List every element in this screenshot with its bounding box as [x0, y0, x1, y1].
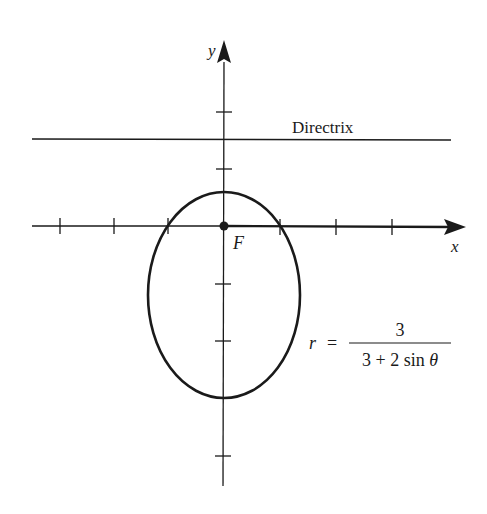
- equation-equals: =: [327, 333, 337, 353]
- equation-denominator: 3 + 2 sin θ: [362, 350, 438, 370]
- x-axis-positive: [224, 226, 452, 227]
- y-axis-label: y: [206, 41, 216, 60]
- focus-label: F: [232, 233, 245, 253]
- y-axis: [223, 62, 224, 486]
- equation: r = 3 3 + 2 sin θ: [309, 320, 451, 370]
- x-axis-label: x: [450, 237, 459, 256]
- diagram-canvas: Directrix x y F r = 3 3 + 2 sin θ: [0, 0, 487, 514]
- directrix-label: Directrix: [292, 118, 354, 137]
- equation-lhs: r: [309, 333, 317, 353]
- equation-numerator: 3: [396, 320, 405, 340]
- y-axis-arrow-icon: [217, 40, 231, 63]
- directrix-line: [32, 139, 451, 140]
- focus-point: [220, 222, 229, 231]
